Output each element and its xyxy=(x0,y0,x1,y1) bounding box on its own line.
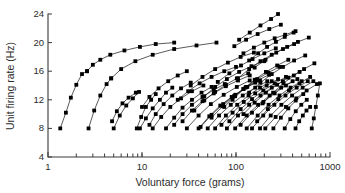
data-point-marker xyxy=(301,114,305,118)
data-point-marker xyxy=(253,101,257,105)
data-point-marker xyxy=(209,102,213,106)
data-point-marker xyxy=(121,101,125,105)
data-point-marker xyxy=(210,116,214,120)
data-point-marker xyxy=(284,94,288,98)
data-point-marker xyxy=(305,89,309,93)
data-point-marker xyxy=(270,72,274,76)
data-point-marker xyxy=(148,95,152,99)
data-point-marker xyxy=(185,127,189,131)
data-point-marker xyxy=(283,33,287,37)
data-point-marker xyxy=(239,123,243,127)
data-point-marker xyxy=(118,114,122,118)
data-point-marker xyxy=(273,36,277,40)
data-point-marker xyxy=(259,94,263,98)
data-point-marker xyxy=(247,91,251,95)
data-point-marker xyxy=(256,51,260,55)
data-point-marker xyxy=(269,17,273,21)
data-series-line xyxy=(60,71,87,128)
data-point-marker xyxy=(247,67,251,71)
data-point-marker xyxy=(198,81,202,85)
data-point-marker xyxy=(200,91,204,95)
x-axis-title: Voluntary force (grams) xyxy=(135,176,244,188)
data-point-marker xyxy=(98,94,102,98)
data-point-marker xyxy=(244,38,248,42)
data-point-marker xyxy=(148,123,152,127)
data-point-marker xyxy=(80,72,84,76)
data-point-marker xyxy=(276,12,280,16)
data-point-marker xyxy=(239,55,243,59)
data-point-marker xyxy=(213,90,217,94)
data-point-marker xyxy=(296,77,300,81)
data-point-marker xyxy=(192,109,196,113)
data-point-marker xyxy=(225,77,229,81)
data-point-marker xyxy=(176,98,180,102)
data-point-marker xyxy=(281,65,285,69)
data-point-marker xyxy=(176,74,180,78)
data-series-line xyxy=(87,43,174,72)
data-point-marker xyxy=(251,57,255,61)
data-point-marker xyxy=(248,31,252,35)
data-point-marker xyxy=(242,100,246,104)
data-point-marker xyxy=(301,86,305,90)
data-point-marker xyxy=(166,79,170,83)
data-point-marker xyxy=(110,119,114,123)
x-tick-label: 100 xyxy=(228,161,244,172)
y-tick-label: 4 xyxy=(39,151,44,162)
data-point-marker xyxy=(252,46,256,50)
y-tick-label: 16 xyxy=(33,65,44,76)
data-point-marker xyxy=(138,45,142,49)
data-point-marker xyxy=(261,114,265,118)
data-point-marker xyxy=(279,23,283,27)
data-point-marker xyxy=(235,103,239,107)
data-point-marker xyxy=(158,98,162,102)
data-point-marker xyxy=(259,81,263,85)
scatter-line-chart: 48121620241101001000 Voluntary force (gr… xyxy=(0,0,345,193)
data-point-marker xyxy=(247,59,251,63)
data-point-marker xyxy=(189,84,193,88)
data-point-marker xyxy=(131,96,135,100)
data-point-marker xyxy=(154,42,158,46)
data-point-marker xyxy=(172,47,176,51)
data-point-marker xyxy=(308,105,312,109)
data-point-marker xyxy=(220,123,224,127)
data-point-marker xyxy=(224,83,228,87)
data-point-marker xyxy=(144,105,148,109)
data-point-marker xyxy=(164,91,168,95)
data-point-marker xyxy=(297,119,301,123)
data-point-marker xyxy=(140,105,144,109)
data-point-marker xyxy=(181,119,185,123)
data-point-marker xyxy=(227,119,231,123)
data-point-marker xyxy=(305,109,309,113)
data-point-marker xyxy=(98,58,102,62)
data-point-marker xyxy=(294,127,298,131)
data-point-marker xyxy=(225,127,229,131)
data-point-marker xyxy=(286,58,290,62)
data-point-marker xyxy=(222,93,226,97)
data-point-marker xyxy=(112,127,116,131)
data-point-marker xyxy=(64,111,68,115)
data-point-marker xyxy=(239,107,243,111)
data-point-marker xyxy=(210,75,214,79)
data-point-marker xyxy=(248,79,252,83)
data-point-marker xyxy=(109,76,113,80)
data-point-marker xyxy=(253,78,257,82)
data-point-marker xyxy=(306,79,310,83)
data-point-marker xyxy=(262,51,266,55)
data-point-marker xyxy=(261,101,265,105)
data-point-marker xyxy=(233,127,237,131)
data-point-marker xyxy=(274,40,278,44)
data-point-marker xyxy=(294,29,298,33)
data-point-marker xyxy=(259,59,263,63)
data-series-line xyxy=(191,53,254,86)
data-point-marker xyxy=(202,99,206,103)
data-point-marker xyxy=(168,105,172,109)
data-point-marker xyxy=(253,66,257,70)
data-point-marker xyxy=(311,79,315,83)
data-point-marker xyxy=(170,94,174,98)
data-point-marker xyxy=(301,92,305,96)
data-point-marker xyxy=(127,96,131,100)
x-tick-label: 1000 xyxy=(319,161,340,172)
data-point-marker xyxy=(172,116,176,120)
data-point-marker xyxy=(303,54,307,58)
data-point-marker xyxy=(151,106,155,110)
